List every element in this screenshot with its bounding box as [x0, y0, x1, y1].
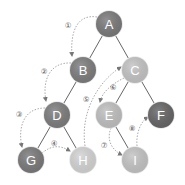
traversal-arrow-7: [109, 128, 122, 155]
step-label-6: ⑥: [110, 83, 117, 92]
node-label: A: [105, 17, 114, 32]
node-g: G: [17, 146, 45, 174]
node-label: B: [79, 63, 88, 78]
node-h: H: [69, 146, 97, 174]
traversal-arrow-8: [137, 117, 148, 146]
node-label: C: [130, 63, 139, 78]
node-label: I: [133, 153, 137, 168]
step-label-2: ②: [41, 67, 48, 76]
tree-nodes: ABCDEFGHI: [17, 10, 175, 174]
node-label: E: [105, 108, 114, 123]
node-a: A: [95, 10, 123, 38]
node-f: F: [147, 101, 175, 129]
step-label-3: ③: [16, 110, 23, 119]
step-label-5: ⑤: [83, 95, 90, 104]
step-label-7: ⑦: [101, 141, 108, 150]
traversal-arrow-1: [72, 17, 97, 56]
traversal-arrows: [21, 17, 148, 155]
node-b: B: [69, 56, 97, 84]
traversal-arrow-2: [45, 63, 71, 101]
tree-traversal-diagram: ABCDEFGHI ①②③④⑤⑥⑦⑧: [0, 0, 185, 185]
node-label: G: [26, 153, 36, 168]
node-c: C: [121, 56, 149, 84]
step-label-4: ④: [51, 139, 58, 148]
node-d: D: [43, 101, 71, 129]
step-label-1: ①: [65, 21, 72, 30]
node-e: E: [95, 101, 123, 129]
node-label: D: [52, 108, 61, 123]
step-label-8: ⑧: [129, 124, 136, 133]
node-i: I: [121, 146, 149, 174]
traversal-arrow-4: [42, 147, 70, 153]
node-label: H: [78, 153, 87, 168]
node-label: F: [157, 108, 165, 123]
